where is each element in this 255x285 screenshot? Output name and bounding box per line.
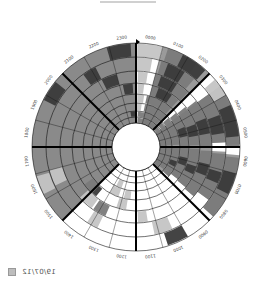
- activity-segment: [137, 84, 144, 94]
- hour-label: 0000: [145, 34, 157, 40]
- activity-segment: [138, 72, 148, 84]
- activity-segment: [137, 95, 144, 103]
- activity-segment: [130, 112, 135, 117]
- hour-label: 2200: [88, 41, 100, 50]
- center-hole: [112, 123, 160, 171]
- hour-label: 2300: [116, 34, 128, 40]
- hour-label: 1900: [30, 99, 39, 111]
- legend-label: 19/07/12: [22, 268, 56, 276]
- activity-segment: [137, 104, 142, 111]
- hour-label: 0400: [234, 99, 243, 111]
- hour-spoke: [142, 170, 163, 247]
- hour-label: 2000: [43, 74, 54, 86]
- legend-swatch: [8, 268, 16, 276]
- hour-label: 0500: [242, 127, 248, 139]
- hour-label: 0800: [218, 208, 229, 220]
- activity-segment: [110, 186, 121, 197]
- activity-segment: [138, 211, 148, 223]
- polar-24h-chart: 0000010002000300040005000600070008000900…: [0, 0, 255, 285]
- activity-segment: [124, 190, 132, 199]
- hour-label: 1000: [172, 245, 184, 254]
- hour-label: 1800: [23, 127, 29, 139]
- hour-label: 1600: [30, 183, 39, 195]
- hour-label: 0100: [172, 41, 184, 50]
- hour-label: 1500: [43, 208, 54, 220]
- hour-label: 2100: [63, 54, 75, 65]
- hour-label: 1700: [23, 155, 29, 167]
- hour-label: 0600: [242, 156, 248, 168]
- activity-segment: [87, 211, 103, 227]
- hour-label: 1100: [144, 253, 156, 259]
- hour-label: 0700: [233, 183, 242, 195]
- hour-label: 1400: [63, 229, 75, 240]
- legend: 19/07/12: [8, 266, 56, 278]
- hour-label: 1200: [116, 253, 128, 259]
- hour-label: 0200: [197, 54, 209, 65]
- hour-label: 1300: [88, 244, 100, 253]
- hour-label: 0900: [197, 229, 209, 240]
- activity-segment: [137, 58, 152, 72]
- hour-label: 0300: [218, 74, 229, 86]
